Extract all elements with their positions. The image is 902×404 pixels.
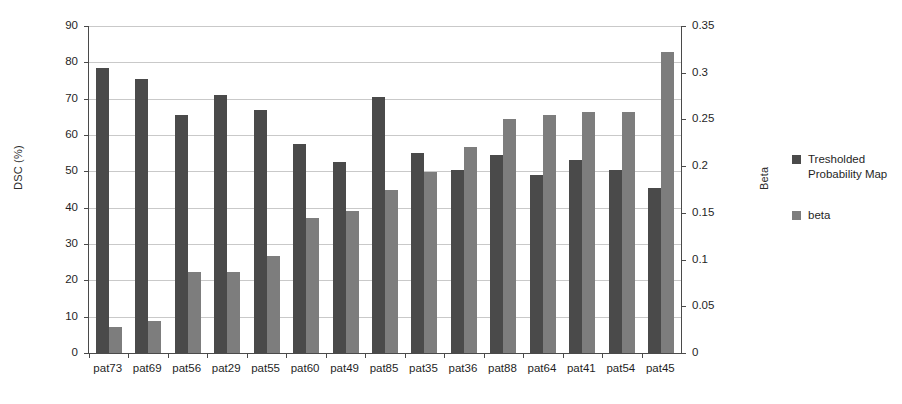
bar-group <box>563 26 602 353</box>
x-tick <box>89 353 90 358</box>
x-axis-label: pat45 <box>641 362 680 374</box>
legend-label: Tresholded Probability Map <box>808 152 896 182</box>
y-tick-right <box>681 260 686 261</box>
y-tick-label-left: 70 <box>65 93 78 105</box>
bar-group <box>247 26 286 353</box>
bar-thresholded-probability-map <box>214 95 227 353</box>
bar-beta <box>346 211 359 353</box>
bar-beta <box>464 147 477 353</box>
x-tick <box>286 353 287 358</box>
y-tick-label-left: 0 <box>72 347 78 359</box>
bar-group <box>642 26 681 353</box>
y-tick-label-right: 0.15 <box>692 207 714 219</box>
bar-beta <box>424 172 437 353</box>
x-tick <box>247 353 248 358</box>
y-tick-label-right: 0.25 <box>692 113 714 125</box>
bar-group <box>326 26 365 353</box>
x-axis-label: pat36 <box>443 362 482 374</box>
y-tick-label-right: 0.05 <box>692 300 714 312</box>
x-axis-labels: pat73pat69pat56pat29pat55pat60pat49pat85… <box>88 362 680 374</box>
axis-baseline <box>89 353 681 354</box>
bar-group <box>128 26 167 353</box>
bar-group <box>405 26 444 353</box>
bar-thresholded-probability-map <box>490 155 503 353</box>
y-tick-label-left: 80 <box>65 56 78 68</box>
bar-group <box>365 26 404 353</box>
x-tick <box>405 353 406 358</box>
bar-group <box>602 26 641 353</box>
bar-beta <box>661 52 674 353</box>
bar-thresholded-probability-map <box>372 97 385 353</box>
bar-group <box>89 26 128 353</box>
bar-thresholded-probability-map <box>411 153 424 353</box>
y-tick-label-left: 20 <box>65 274 78 286</box>
bar-thresholded-probability-map <box>333 162 346 353</box>
bar-beta <box>148 321 161 353</box>
bar-thresholded-probability-map <box>569 160 582 353</box>
x-tick <box>365 353 366 358</box>
bar-thresholded-probability-map <box>96 68 109 353</box>
y-tick-label-left: 30 <box>65 238 78 250</box>
bar-group <box>484 26 523 353</box>
y-tick-label-right: 0.35 <box>692 20 714 32</box>
legend-item: beta <box>792 208 896 223</box>
y-tick-label-right: 0.1 <box>692 254 708 266</box>
bar-group <box>168 26 207 353</box>
bar-group <box>207 26 246 353</box>
y-tick-right <box>681 119 686 120</box>
y-axis-left-title: DSC (%) <box>12 145 24 190</box>
x-tick <box>523 353 524 358</box>
x-tick <box>642 353 643 358</box>
x-axis-label: pat29 <box>206 362 245 374</box>
bar-beta <box>582 112 595 353</box>
y-tick-label-right: 0 <box>692 347 698 359</box>
y-tick-label-left: 60 <box>65 129 78 141</box>
bar-thresholded-probability-map <box>293 144 306 353</box>
plot-area: 0102030405060708090 00.050.10.150.20.250… <box>88 26 682 353</box>
bar-beta <box>109 327 122 353</box>
chart-page: DSC (%) Beta 0102030405060708090 00.050.… <box>0 0 902 404</box>
bar-beta <box>267 256 280 353</box>
x-tick <box>484 353 485 358</box>
bar-thresholded-probability-map <box>530 175 543 353</box>
x-tick <box>168 353 169 358</box>
x-axis-label: pat64 <box>522 362 561 374</box>
bar-beta <box>188 272 201 353</box>
x-tick <box>207 353 208 358</box>
x-axis-label: pat73 <box>88 362 127 374</box>
bar-beta <box>622 112 635 353</box>
x-axis-label: pat55 <box>246 362 285 374</box>
x-axis-label: pat35 <box>404 362 443 374</box>
y-tick-right <box>681 26 686 27</box>
legend-label: beta <box>808 208 830 223</box>
x-axis-label: pat60 <box>285 362 324 374</box>
bar-groups <box>89 26 681 353</box>
y-tick-right <box>681 166 686 167</box>
x-tick <box>326 353 327 358</box>
bar-group <box>444 26 483 353</box>
bar-thresholded-probability-map <box>451 170 464 353</box>
y-tick-label-left: 90 <box>65 20 78 32</box>
y-tick-label-right: 0.2 <box>692 160 708 172</box>
bar-thresholded-probability-map <box>609 170 622 353</box>
y-tick-label-left: 40 <box>65 202 78 214</box>
chart-legend: Tresholded Probability Mapbeta <box>792 152 896 249</box>
x-axis-label: pat69 <box>127 362 166 374</box>
x-axis-label: pat88 <box>483 362 522 374</box>
y-tick-label-right: 0.3 <box>692 67 708 79</box>
x-axis-label: pat49 <box>325 362 364 374</box>
legend-swatch-icon <box>792 155 801 164</box>
y-tick-right <box>681 353 686 354</box>
legend-item: Tresholded Probability Map <box>792 152 896 182</box>
bar-beta <box>306 218 319 353</box>
x-tick <box>602 353 603 358</box>
x-tick <box>444 353 445 358</box>
legend-swatch-icon <box>792 211 801 220</box>
x-axis-label: pat54 <box>601 362 640 374</box>
y-tick-label-left: 50 <box>65 165 78 177</box>
x-axis-label: pat56 <box>167 362 206 374</box>
bar-group <box>286 26 325 353</box>
y-tick-right <box>681 73 686 74</box>
bar-thresholded-probability-map <box>648 188 661 353</box>
y-tick-label-left: 10 <box>65 311 78 323</box>
